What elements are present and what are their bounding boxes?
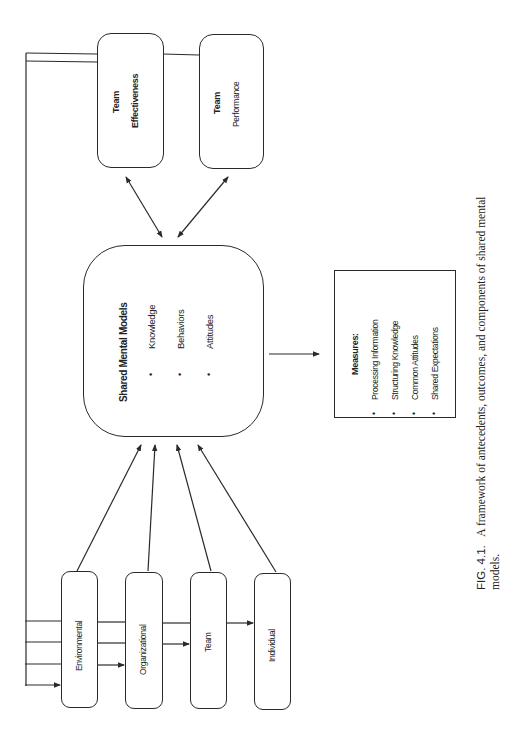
- measure-bullet: •: [369, 412, 379, 415]
- measure-processing-information: Processing Information: [370, 320, 380, 400]
- antecedent-label: Individual: [267, 629, 277, 662]
- figure-caption-continuation: models.: [489, 554, 501, 590]
- antecedent-box-team: Team: [190, 572, 227, 709]
- central-title: Shared Mental Models: [118, 302, 129, 402]
- antecedent-label: Organizational: [138, 624, 148, 675]
- outcome-label-line2: Effectiveness: [130, 74, 140, 128]
- figure-caption: FIG. 4.1. A framework of antecedents, ou…: [475, 197, 487, 590]
- component-bullet: •: [175, 373, 185, 376]
- component-attitudes: Attitudes: [204, 315, 215, 349]
- outcome-label-line1: Team: [212, 92, 222, 114]
- antecedent-box-organizational: Organizational: [125, 572, 163, 709]
- measure-common-attitudes: Common Attitudes: [410, 335, 420, 400]
- antecedent-box-individual: Individual: [254, 573, 291, 710]
- antecedent-box-environmental: Environmental: [61, 571, 98, 708]
- shared-mental-models-box: Shared Mental Models • Knowledge • Behav…: [83, 245, 264, 437]
- measure-bullet: •: [389, 412, 399, 415]
- figure-caption-label: FIG. 4.1.: [475, 545, 487, 590]
- component-bullet: •: [146, 373, 156, 376]
- component-behaviors: Behaviors: [175, 309, 186, 349]
- measure-structuring-knowledge: Structuring Knowledge: [390, 321, 400, 400]
- outcome-box-team-effectiveness: Team Effectiveness: [97, 33, 164, 168]
- component-bullet: •: [204, 373, 214, 376]
- component-knowledge: Knowledge: [146, 305, 157, 349]
- outcome-label-line2: Performance: [231, 82, 241, 127]
- measures-title: Measures:: [350, 333, 360, 375]
- measure-bullet: •: [429, 412, 439, 415]
- measures-box: Measures: • Processing Information • Str…: [334, 270, 456, 418]
- antecedent-label: Environmental: [74, 621, 84, 671]
- measure-bullet: •: [409, 412, 419, 415]
- measure-shared-expectations: Shared Expectations: [430, 327, 440, 400]
- antecedent-label: Team: [203, 632, 213, 652]
- outcome-label-line1: Team: [111, 91, 121, 113]
- outcome-box-team-performance: Team Performance: [199, 34, 264, 169]
- figure-caption-text: A framework of antecedents, outcomes, an…: [475, 197, 487, 537]
